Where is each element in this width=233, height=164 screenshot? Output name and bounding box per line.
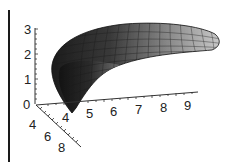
- y-tick-4: 4: [29, 117, 36, 132]
- x-tick-5: 5: [86, 106, 93, 121]
- z-axis: 3 2 1 0: [23, 22, 38, 112]
- x-tick-4: 4: [62, 110, 69, 125]
- y-tick-8: 8: [58, 140, 65, 155]
- x-tick-7: 7: [135, 102, 142, 117]
- x-tick-9: 9: [184, 98, 191, 113]
- x-axis: 4 5 6 7 8 9: [36, 92, 198, 125]
- z-tick-3: 3: [24, 22, 31, 37]
- z-tick-1: 1: [24, 72, 31, 87]
- surface-plot: 3 2 1 0 4 5 6 7 8 9: [0, 0, 233, 164]
- z-tick-0: 0: [23, 97, 30, 112]
- x-tick-6: 6: [110, 104, 117, 119]
- y-tick-6: 6: [44, 129, 51, 144]
- surface-mesh: [52, 20, 225, 113]
- y-axis: 4 6 8: [29, 105, 81, 155]
- x-tick-8: 8: [160, 100, 167, 115]
- z-tick-2: 2: [24, 47, 31, 62]
